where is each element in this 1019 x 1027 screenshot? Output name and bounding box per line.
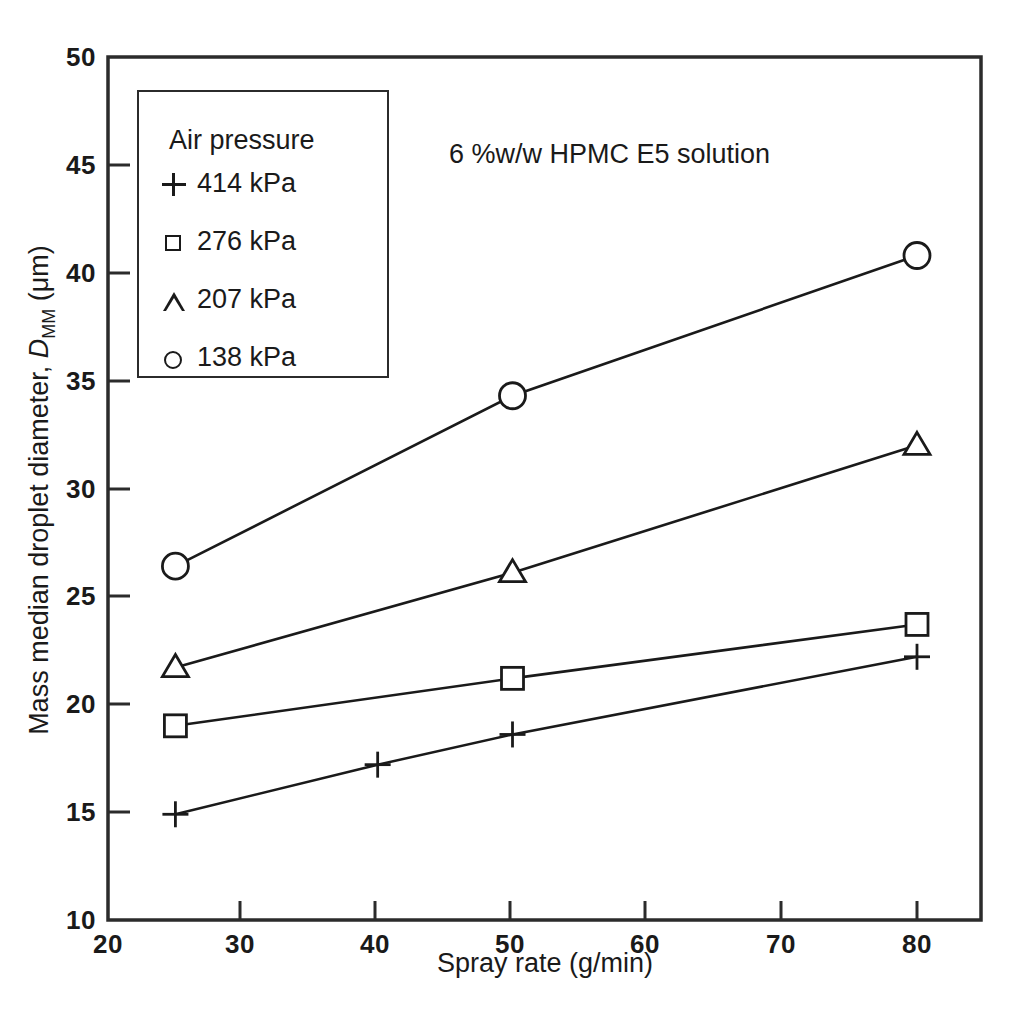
plus-marker-icon — [161, 171, 187, 197]
y-tick-label-50: 50 — [66, 42, 96, 73]
x-tick-label-20: 20 — [93, 929, 123, 960]
legend-entry-276-kpa[interactable]: 276 kPa — [161, 228, 296, 255]
y-tick-label-25: 25 — [66, 581, 96, 612]
legend-label-138-kpa: 138 kPa — [197, 344, 296, 371]
y-tick-label-10: 10 — [66, 905, 96, 936]
series-line-207-kpa — [175, 445, 917, 667]
data-point-414-kpa-40 — [365, 752, 391, 778]
data-point-414-kpa-25 — [162, 801, 188, 827]
x-tick-label-70: 70 — [766, 929, 796, 960]
legend-label-414-kpa: 414 kPa — [197, 170, 296, 197]
y-tick-label-45: 45 — [66, 150, 96, 181]
data-point-138-kpa-25 — [162, 553, 188, 579]
data-point-276-kpa-50 — [502, 667, 524, 689]
legend-box: Air pressure 414 kPa 276 kPa 207 kPa 138… — [137, 90, 389, 378]
legend-label-207-kpa: 207 kPa — [197, 286, 296, 313]
circle-marker-icon — [161, 345, 187, 371]
data-point-276-kpa-80 — [906, 613, 928, 635]
y-tick-label-30: 30 — [66, 474, 96, 505]
y-axis-title-units: (μm) — [24, 245, 54, 309]
x-tick-label-30: 30 — [225, 929, 255, 960]
figure-chart-droplet-diameter: 20 30 40 50 60 70 80 10 15 20 25 30 35 4… — [0, 0, 1019, 1027]
data-point-414-kpa-80 — [904, 644, 930, 670]
y-tick-label-20: 20 — [66, 689, 96, 720]
chart-annotation-text: 6 %w/w HPMC E5 solution — [449, 139, 770, 170]
series-line-414-kpa — [175, 657, 917, 814]
x-axis-title: Spray rate (g/min) — [437, 948, 653, 979]
data-point-276-kpa-25 — [164, 715, 186, 737]
y-axis-title: Mass median droplet diameter, DMM (μm) — [24, 245, 59, 735]
legend-title: Air pressure — [169, 125, 315, 156]
triangle-marker-icon — [161, 287, 187, 313]
legend-entry-414-kpa[interactable]: 414 kPa — [161, 170, 296, 197]
y-axis-title-subscript: MM — [39, 309, 59, 339]
x-tick-label-40: 40 — [360, 929, 390, 960]
y-tick-label-35: 35 — [66, 366, 96, 397]
data-point-138-kpa-80 — [904, 242, 930, 268]
x-tick-label-80: 80 — [902, 929, 932, 960]
y-tick-label-40: 40 — [66, 258, 96, 289]
y-axis-ticks — [108, 165, 130, 812]
square-marker-icon — [161, 229, 187, 255]
x-axis-ticks — [240, 901, 917, 920]
y-tick-label-15: 15 — [66, 797, 96, 828]
y-axis-title-prefix: Mass median droplet diameter, — [24, 358, 54, 735]
data-point-138-kpa-50 — [500, 383, 526, 409]
data-point-414-kpa-50 — [500, 721, 526, 747]
legend-entry-207-kpa[interactable]: 207 kPa — [161, 286, 296, 313]
legend-entry-138-kpa[interactable]: 138 kPa — [161, 344, 296, 371]
data-point-207-kpa-80 — [904, 432, 930, 454]
y-axis-title-symbol: D — [24, 339, 54, 359]
series-line-276-kpa — [175, 624, 917, 725]
legend-label-276-kpa: 276 kPa — [197, 228, 296, 255]
